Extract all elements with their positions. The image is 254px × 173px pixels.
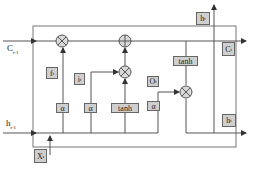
h-prev-label: ht-1 <box>6 119 16 130</box>
x-input-box: Xt <box>34 149 47 163</box>
input-gate-label: it <box>74 73 85 85</box>
multiply-op-output <box>180 86 192 98</box>
sigma-box-3: α <box>147 101 160 111</box>
tanh-box-top: tanh <box>173 56 198 66</box>
lstm-diagram-lines <box>0 0 254 173</box>
forget-gate-label: ft <box>46 67 58 79</box>
multiply-op-forget <box>56 35 68 47</box>
c-output-box: Ct <box>222 42 235 56</box>
multiply-op-input <box>119 66 131 78</box>
add-op <box>119 35 131 47</box>
h-output-bottom: ht <box>222 114 236 127</box>
tanh-box-mid: tanh <box>111 103 139 113</box>
c-prev-label: Ct-1 <box>7 44 19 55</box>
sigma-box-2: α <box>84 103 97 113</box>
h-output-top: ht <box>196 12 210 25</box>
output-gate-label: Ot <box>147 76 159 87</box>
sigma-box-1: α <box>56 103 69 113</box>
